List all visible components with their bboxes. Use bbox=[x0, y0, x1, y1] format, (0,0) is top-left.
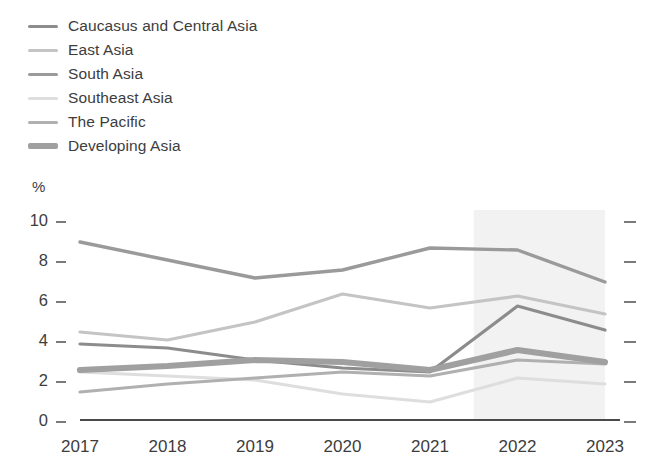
x-axis-tick-label: 2023 bbox=[586, 437, 624, 455]
legend-item[interactable]: South Asia bbox=[28, 62, 448, 86]
legend-swatch-icon bbox=[28, 49, 58, 52]
legend-swatch-icon bbox=[28, 97, 58, 100]
legend-item-label: The Pacific bbox=[68, 113, 146, 131]
chart-figure: Caucasus and Central AsiaEast AsiaSouth … bbox=[0, 0, 655, 455]
legend-swatch-icon bbox=[28, 73, 58, 76]
x-axis-tick-label: 2017 bbox=[61, 437, 99, 455]
line-chart-svg: %02468102017201820192020202120222023 bbox=[0, 170, 655, 455]
x-axis-tick-label: 2022 bbox=[499, 437, 537, 455]
legend-item-label: East Asia bbox=[68, 41, 134, 59]
legend-swatch-icon bbox=[28, 121, 58, 124]
y-axis-tick-label: 4 bbox=[39, 331, 48, 349]
plot-area: %02468102017201820192020202120222023 bbox=[0, 170, 655, 455]
legend-item[interactable]: East Asia bbox=[28, 38, 448, 62]
x-axis-tick-label: 2018 bbox=[149, 437, 187, 455]
y-axis-tick-label: 10 bbox=[30, 211, 48, 229]
x-axis-tick-label: 2019 bbox=[236, 437, 274, 455]
legend-item[interactable]: Southeast Asia bbox=[28, 86, 448, 110]
legend-swatch-icon bbox=[28, 143, 58, 149]
y-axis-tick-label: 2 bbox=[39, 371, 48, 389]
x-axis-tick-label: 2020 bbox=[324, 437, 362, 455]
legend-item[interactable]: Caucasus and Central Asia bbox=[28, 14, 448, 38]
legend-swatch-icon bbox=[28, 25, 58, 28]
y-axis-tick-label: 8 bbox=[39, 251, 48, 269]
legend-item-label: South Asia bbox=[68, 65, 143, 83]
chart-legend: Caucasus and Central AsiaEast AsiaSouth … bbox=[28, 14, 448, 158]
legend-item[interactable]: Developing Asia bbox=[28, 134, 448, 158]
legend-item[interactable]: The Pacific bbox=[28, 110, 448, 134]
forecast-shaded-band bbox=[474, 210, 605, 420]
x-axis-tick-label: 2021 bbox=[411, 437, 449, 455]
legend-item-label: Caucasus and Central Asia bbox=[68, 17, 257, 35]
y-axis-tick-label: 6 bbox=[39, 291, 48, 309]
legend-item-label: Developing Asia bbox=[68, 137, 181, 155]
legend-item-label: Southeast Asia bbox=[68, 89, 173, 107]
y-axis-tick-label: 0 bbox=[39, 411, 48, 429]
y-axis-unit-label: % bbox=[32, 178, 45, 195]
